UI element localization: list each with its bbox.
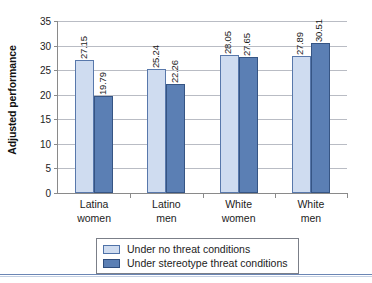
bar-value-label: 28.05 [222,31,233,54]
bar-1-series-1[interactable]: 22.26 [166,84,185,193]
bar-0-series-0[interactable]: 27.15 [75,60,94,193]
y-axis-tick [54,119,58,120]
legend-label-series-1: Under stereotype threat conditions [127,257,288,269]
y-axis-tick [54,144,58,145]
y-axis-tick-label: 0 [45,188,51,199]
y-axis-title: Adjusted performance [2,0,22,200]
legend-item-0[interactable]: Under no threat conditions [103,242,288,256]
y-axis-tick-label: 25 [40,65,51,76]
bar-3-series-1[interactable]: 30.51 [311,43,330,193]
x-axis-label-0: Latinawomen [58,197,130,225]
y-axis-tick [54,95,58,96]
bar-chart: Adjusted performance 0510152025303527.15… [0,0,372,283]
legend-label-series-0: Under no threat conditions [127,243,250,255]
bar-0-series-1[interactable]: 19.79 [94,96,113,193]
y-axis-title-text: Adjusted performance [6,45,18,154]
x-axis-label-3: Whitemen [275,197,347,225]
chart-legend: Under no threat conditions Under stereot… [96,238,299,274]
x-axis-tick [347,193,348,198]
footer-divider-secondary [0,276,372,277]
legend-swatch-icon-series-0 [103,245,120,254]
bar-value-label: 27.65 [241,33,252,56]
y-axis-tick-label: 35 [40,16,51,27]
bar-3-series-0[interactable]: 27.89 [292,56,311,193]
y-axis-tick-label: 20 [40,89,51,100]
footer-divider [0,274,372,275]
bar-1-series-0[interactable]: 25.24 [147,69,166,193]
bar-value-label: 27.89 [294,32,305,55]
bar-value-label: 19.79 [97,72,108,95]
x-axis-category-labels: LatinawomenLatinomenWhitewomenWhitemen [58,197,347,233]
gridline [58,21,347,22]
y-axis-tick-label: 15 [40,114,51,125]
y-axis-tick [54,70,58,71]
bar-2-series-1[interactable]: 27.65 [239,57,258,193]
x-axis-label-2: Whitewomen [203,197,275,225]
y-axis-tick [54,168,58,169]
y-axis-tick-label: 30 [40,40,51,51]
plot-area: 0510152025303527.1519.7925.2422.2628.052… [57,21,347,194]
legend-swatch-icon-series-1 [103,259,120,268]
bar-value-label: 22.26 [169,60,180,83]
y-axis-tick-label: 5 [45,163,51,174]
y-axis-tick [54,46,58,47]
y-axis-tick-label: 10 [40,138,51,149]
x-axis-label-1: Latinomen [130,197,202,225]
y-axis-tick [54,21,58,22]
y-axis-tick [54,193,58,194]
legend-item-1[interactable]: Under stereotype threat conditions [103,256,288,270]
bar-value-label: 27.15 [78,36,89,59]
bar-value-label: 25.24 [150,45,161,68]
bar-2-series-0[interactable]: 28.05 [220,55,239,193]
bar-value-label: 30.51 [313,19,324,42]
